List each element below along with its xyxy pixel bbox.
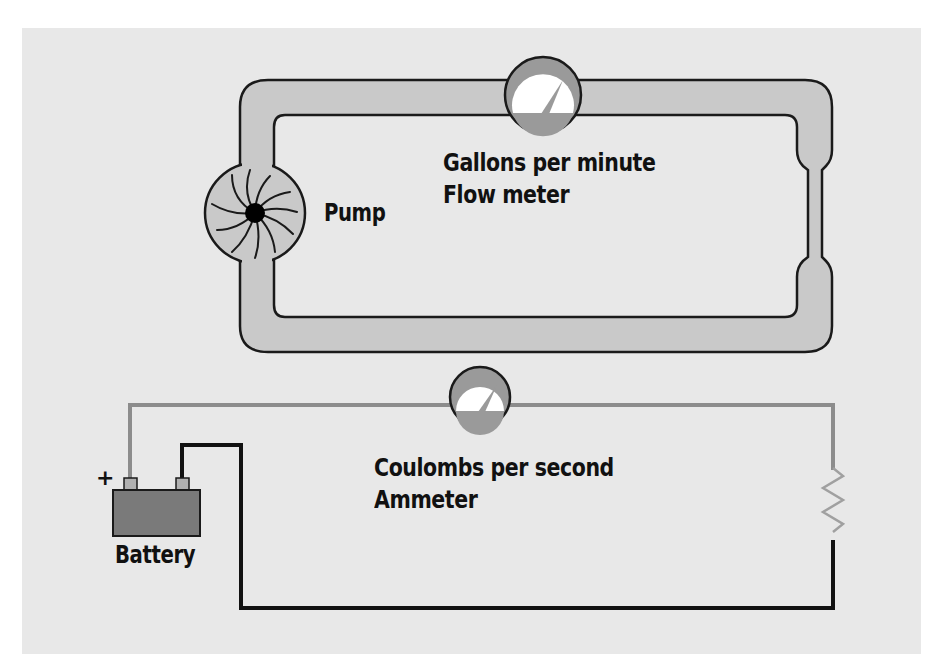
pump-label: Pump: [324, 198, 385, 228]
battery-icon: [113, 478, 200, 536]
battery-label: Battery: [115, 540, 195, 570]
flow-meter-gauge-icon: [505, 57, 581, 136]
ammeter-label: Ammeter: [374, 485, 477, 515]
resistor-icon: [823, 468, 843, 532]
pump-icon: [205, 158, 305, 268]
ammeter-unit-label: Coulombs per second: [374, 453, 614, 483]
flow-meter-unit-label: Gallons per minute: [443, 148, 655, 178]
flow-meter-label: Flow meter: [443, 180, 569, 210]
positive-terminal-symbol: +: [96, 463, 114, 493]
ammeter-gauge-icon: [450, 367, 510, 435]
